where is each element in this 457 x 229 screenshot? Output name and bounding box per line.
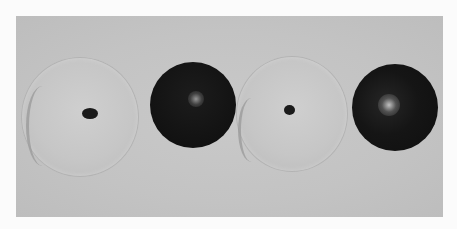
dark-spot-1 xyxy=(82,108,98,119)
crescent-edge-2 xyxy=(238,98,265,162)
photograph xyxy=(16,16,443,217)
highlight-2 xyxy=(378,94,400,116)
highlight-1 xyxy=(188,91,204,107)
dark-spot-2 xyxy=(284,105,295,115)
crescent-edge-1 xyxy=(26,86,59,166)
